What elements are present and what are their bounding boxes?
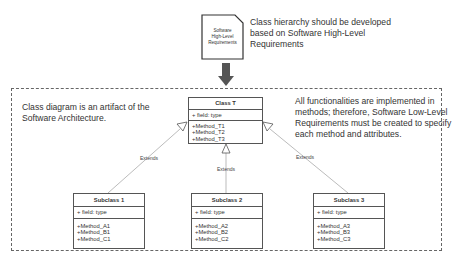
method: +Method_C1: [77, 236, 144, 242]
method: +Method_T3: [192, 136, 262, 142]
class-box-subclass-1[interactable]: Subclass 1 + field: type +Method_A1 +Met…: [73, 193, 145, 249]
class-field: + field: type: [189, 110, 262, 121]
inheritance-triangle-icon: [263, 122, 273, 131]
class-name: Subclass 2: [192, 194, 262, 207]
inheritance-triangle-icon: [222, 144, 230, 153]
extends-label-sub2: Extends: [217, 166, 235, 172]
class-methods: +Method_A3 +Method_B3 +Method_C3: [314, 219, 384, 242]
class-methods: +Method_T1 +Method_T2 +Method_T3: [189, 121, 262, 142]
class-box-subclass-2[interactable]: Subclass 2 + field: type +Method_A2 +Met…: [191, 193, 263, 249]
class-methods: +Method_A1 +Method_B1 +Method_C1: [74, 219, 144, 242]
class-field: + field: type: [314, 207, 384, 219]
class-box-class-t[interactable]: Class T + field: type +Method_T1 +Method…: [188, 97, 263, 144]
class-name: Subclass 1: [74, 194, 144, 207]
class-field: + field: type: [192, 207, 262, 219]
class-field: + field: type: [74, 207, 144, 219]
class-name: Subclass 3: [314, 194, 384, 207]
method: +Method_C3: [317, 236, 384, 242]
class-box-subclass-3[interactable]: Subclass 3 + field: type +Method_A3 +Met…: [313, 193, 385, 249]
class-methods: +Method_A2 +Method_B2 +Method_C2: [192, 219, 262, 242]
method: +Method_C2: [195, 236, 262, 242]
extends-label-sub1: Extends: [140, 155, 158, 161]
class-name: Class T: [189, 98, 262, 110]
inheritance-triangle-icon: [177, 122, 187, 131]
extends-label-sub3: Extends: [296, 154, 314, 160]
